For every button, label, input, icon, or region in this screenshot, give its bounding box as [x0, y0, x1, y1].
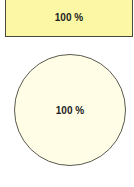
circle-shape: 100 % [14, 54, 126, 166]
rectangle-shape: 100 % [5, 0, 133, 37]
circle-label: 100 % [56, 105, 84, 116]
rectangle-label: 100 % [55, 12, 83, 23]
